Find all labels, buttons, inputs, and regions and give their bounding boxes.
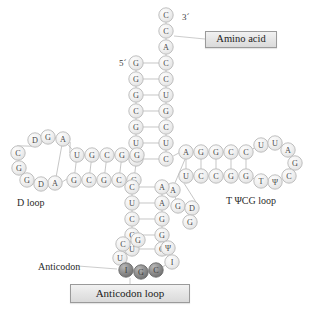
base-circle <box>159 40 173 54</box>
nucleotide-a: A <box>281 143 295 157</box>
base-circle <box>224 169 238 183</box>
nucleotide-c: C <box>159 152 173 166</box>
nucleotide-a: A <box>155 180 169 194</box>
base-circle <box>155 228 169 242</box>
base-circle <box>161 241 175 255</box>
base-circle <box>159 56 173 70</box>
nucleotide-u: U <box>159 136 173 150</box>
acceptor-tstem-link <box>173 153 179 156</box>
base-circle <box>82 173 96 187</box>
nucleotide-c: C <box>209 169 223 183</box>
nucleotide-g: G <box>130 148 144 162</box>
base-circle <box>85 148 99 162</box>
amino-acid-label-box: Amino acid <box>205 31 277 48</box>
nucleotide-d: D <box>34 177 48 191</box>
nucleotide-a: A <box>155 196 169 210</box>
base-circle <box>239 169 253 183</box>
nucleotide-g: G <box>209 145 223 159</box>
base-circle <box>48 176 62 190</box>
nucleotide-g: G <box>129 72 143 86</box>
base-circle <box>165 255 179 269</box>
base-circle <box>185 201 199 215</box>
base-circle <box>159 8 173 22</box>
base-circle <box>11 146 25 160</box>
base-circle <box>129 56 143 70</box>
nucleotide-c: C <box>194 169 208 183</box>
nucleotide-g: G <box>67 173 81 187</box>
nucleotide-d: D <box>28 133 42 147</box>
nucleotide-g: G <box>129 88 143 102</box>
nucleotide-u: U <box>70 148 84 162</box>
base-circle <box>194 169 208 183</box>
nucleotide-c: C <box>159 8 173 22</box>
nucleotide-g: G <box>115 148 129 162</box>
base-circle <box>56 132 70 146</box>
base-circle <box>112 173 126 187</box>
base-circle <box>155 180 169 194</box>
base-circle <box>129 104 143 118</box>
base-circle <box>115 148 129 162</box>
anticodon-leader-line <box>78 266 117 269</box>
d-loop-label: D loop <box>17 197 45 208</box>
five-prime-label: 5´ <box>119 58 127 68</box>
nucleotide-g: G <box>194 145 208 159</box>
base-circle <box>282 169 296 183</box>
nucleotide-g: G <box>183 215 197 229</box>
nucleotide-c: C <box>224 145 238 159</box>
nucleotide-g: G <box>224 169 238 183</box>
d-stem-base-pair <box>105 162 106 173</box>
base-circle <box>159 88 173 102</box>
base-circle <box>209 145 223 159</box>
base-circle <box>194 145 208 159</box>
base-circle <box>125 212 139 226</box>
base-circle <box>125 180 139 194</box>
nucleotide-a: A <box>179 145 193 159</box>
nucleotide-g: G <box>155 212 169 226</box>
base-circle <box>239 145 253 159</box>
nucleotide-c: C <box>112 173 126 187</box>
nucleotide-u: U <box>268 136 282 150</box>
nucleotide-i: I <box>119 263 133 277</box>
nucleotide-g: G <box>97 173 111 187</box>
base-circle <box>67 173 81 187</box>
anticodon-loop-backbone <box>162 265 165 267</box>
base-circle <box>159 152 173 166</box>
amino-acid-leader-line <box>174 36 205 39</box>
nucleotide-g: G <box>134 265 148 279</box>
base-circle <box>224 145 238 159</box>
nucleotide-g: G <box>129 56 143 70</box>
base-circle <box>288 156 302 170</box>
base-circle <box>97 173 111 187</box>
base-circle <box>134 265 148 279</box>
base-circle <box>12 161 26 175</box>
nucleotide-u: U <box>159 88 173 102</box>
nucleotide-i: I <box>165 255 179 269</box>
tpsicg-loop-label: T ΨCG loop <box>226 195 276 206</box>
base-circle <box>70 148 84 162</box>
nucleotide-c: C <box>129 104 143 118</box>
nucleotide-t: T <box>254 174 268 188</box>
nucleotide-c: C <box>125 212 139 226</box>
base-circle <box>155 212 169 226</box>
nucleotide-g: G <box>129 120 143 134</box>
d-stem-base-pair <box>75 162 76 173</box>
nucleotide-g: G <box>288 156 302 170</box>
anticodon-label: Anticodon <box>38 261 80 272</box>
nucleotide-ψ: Ψ <box>161 241 175 255</box>
base-circle <box>159 24 173 38</box>
nucleotide-c: C <box>100 148 114 162</box>
base-circle <box>129 88 143 102</box>
nucleotide-g: G <box>239 169 253 183</box>
nucleotide-c: C <box>159 24 173 38</box>
base-circle <box>281 143 295 157</box>
trna-diagram-figure: CCACCUGCUCGGGCGUGUGCGGGCGCGDGAADGGCAGDGA… <box>0 0 311 317</box>
d-loop-join <box>62 179 67 182</box>
nucleotide-a: A <box>159 40 173 54</box>
base-circle <box>179 145 193 159</box>
base-circle <box>131 233 145 247</box>
base-circle <box>28 133 42 147</box>
base-circle <box>268 136 282 150</box>
base-circle <box>254 138 268 152</box>
base-circle <box>130 148 144 162</box>
nucleotide-c: C <box>159 120 173 134</box>
